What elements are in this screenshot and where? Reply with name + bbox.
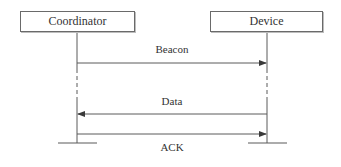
device-box: Device	[210, 11, 323, 32]
beacon-label: Beacon	[156, 43, 189, 55]
device-lifeline	[248, 32, 287, 143]
coordinator-box: Coordinator	[20, 11, 135, 32]
data-label: Data	[162, 95, 183, 107]
sequence-diagram: Coordinator Device Beacon Data ACK	[0, 0, 341, 167]
coordinator-label: Coordinator	[49, 14, 107, 29]
device-label: Device	[250, 14, 284, 29]
coordinator-lifeline	[58, 32, 97, 143]
ack-label: ACK	[160, 141, 183, 153]
